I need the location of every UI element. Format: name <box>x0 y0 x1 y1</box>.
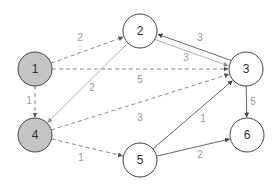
edge-weight-label: 2 <box>197 149 203 160</box>
node-4: 4 <box>18 118 52 152</box>
node-3: 3 <box>229 52 263 86</box>
edge-weight-label: 5 <box>250 96 256 107</box>
node-label: 2 <box>137 24 144 38</box>
graph-diagram: 25123331125 123456 <box>0 0 278 188</box>
edge-weight-label: 3 <box>197 32 203 43</box>
edge-weight-label: 1 <box>200 113 206 124</box>
node-label: 4 <box>32 128 39 142</box>
edge-2-to-4 <box>48 43 128 122</box>
edge-weight-label: 2 <box>89 82 95 93</box>
edge-5-to-3 <box>153 81 232 149</box>
node-label: 3 <box>243 62 250 76</box>
node-2: 2 <box>123 14 157 48</box>
edge-weight-label: 5 <box>137 74 143 85</box>
edge-5-to-6 <box>157 139 230 156</box>
edge-2-to-3 <box>155 40 228 66</box>
node-label: 5 <box>137 153 144 167</box>
node-label: 6 <box>244 128 251 142</box>
edges-layer <box>35 34 247 156</box>
edge-weight-label: 1 <box>78 152 84 163</box>
node-1: 1 <box>18 52 52 86</box>
edge-1-to-2 <box>51 37 123 63</box>
edge-3-to-2 <box>158 34 231 60</box>
nodes-layer: 123456 <box>18 14 264 177</box>
edge-weight-label: 2 <box>77 32 83 43</box>
node-6: 6 <box>230 118 264 152</box>
edge-4-to-5 <box>52 139 123 156</box>
node-5: 5 <box>123 143 157 177</box>
edge-weight-label: 3 <box>183 52 189 63</box>
edge-weight-label: 1 <box>26 95 32 106</box>
node-label: 1 <box>32 62 39 76</box>
edge-weight-label: 3 <box>137 112 143 123</box>
